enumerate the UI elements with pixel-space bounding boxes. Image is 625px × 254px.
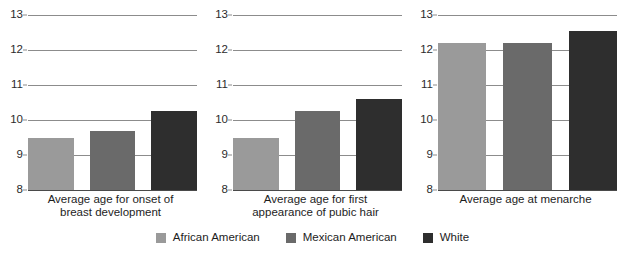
y-tick-mark	[433, 120, 437, 121]
panel-caption: Average age at menarche	[430, 193, 621, 206]
bar[interactable]	[90, 131, 136, 191]
y-axis-tick-label: 11	[216, 79, 228, 91]
plot-area: 1312111098	[233, 15, 402, 190]
y-tick-mark	[228, 85, 232, 86]
grouped-bar-chart-figure: 1312111098 Average age for onset ofbreas…	[0, 0, 625, 254]
bar[interactable]	[356, 99, 402, 190]
y-axis-tick-label: 10	[215, 114, 228, 126]
bar-slot	[151, 15, 197, 190]
y-tick-mark	[228, 120, 232, 121]
chart-panel-menarche: 1312111098 Average age at menarche	[410, 0, 625, 226]
axis-baseline	[233, 190, 402, 191]
y-tick-mark	[23, 85, 27, 86]
bar[interactable]	[569, 31, 617, 190]
bar-slot	[90, 15, 136, 190]
y-axis-tick-label: 9	[427, 149, 433, 161]
panel-caption: Average age for firstappearance of pubic…	[225, 193, 406, 219]
bar[interactable]	[503, 43, 551, 190]
legend-label: White	[440, 232, 469, 244]
bar-slot	[356, 15, 402, 190]
bar-slot	[295, 15, 341, 190]
y-tick-mark	[433, 155, 437, 156]
panel-caption: Average age for onset ofbreast developme…	[20, 193, 201, 219]
y-tick-mark	[433, 85, 437, 86]
plot-area: 1312111098	[28, 15, 197, 190]
y-axis-tick-label: 11	[421, 79, 433, 91]
y-axis-tick-label: 10	[10, 114, 23, 126]
legend-label: Mexican American	[303, 232, 397, 244]
bar-group	[438, 15, 617, 190]
y-tick-mark	[23, 15, 27, 16]
bar-slot	[28, 15, 74, 190]
chart-panel-pubic-hair: 1312111098 Average age for firstappearan…	[205, 0, 410, 226]
y-tick-mark	[23, 155, 27, 156]
y-axis-tick-label: 12	[215, 44, 228, 56]
legend-item[interactable]: White	[423, 232, 469, 244]
y-tick-mark	[228, 50, 232, 51]
y-axis-tick-label: 13	[420, 9, 433, 21]
bar-slot	[503, 15, 551, 190]
bar[interactable]	[151, 111, 197, 190]
bar[interactable]	[233, 138, 279, 191]
axis-baseline	[438, 190, 617, 191]
legend-item[interactable]: African American	[156, 232, 260, 244]
y-axis-tick-label: 9	[17, 149, 23, 161]
y-tick-mark	[23, 190, 27, 191]
y-axis-tick-label: 12	[10, 44, 23, 56]
legend-item[interactable]: Mexican American	[286, 232, 397, 244]
y-axis-tick-label: 12	[420, 44, 433, 56]
y-tick-mark	[433, 50, 437, 51]
bar[interactable]	[438, 43, 486, 190]
panel-caption-line: breast development	[20, 206, 201, 219]
y-axis-tick-label: 10	[420, 114, 433, 126]
y-tick-mark	[433, 15, 437, 16]
bar-slot	[569, 15, 617, 190]
y-tick-mark	[228, 15, 232, 16]
y-tick-mark	[228, 190, 232, 191]
bar-slot	[233, 15, 279, 190]
axis-baseline	[28, 190, 197, 191]
y-tick-mark	[23, 120, 27, 121]
y-axis-tick-label: 13	[10, 9, 23, 21]
y-tick-mark	[23, 50, 27, 51]
bar-slot	[438, 15, 486, 190]
plot-area: 1312111098	[438, 15, 617, 190]
y-axis-tick-label: 13	[215, 9, 228, 21]
y-tick-mark	[433, 190, 437, 191]
legend-label: African American	[173, 232, 260, 244]
legend-swatch-icon	[286, 233, 296, 243]
legend-swatch-icon	[156, 233, 166, 243]
bar[interactable]	[295, 111, 341, 190]
panel-caption-line: appearance of pubic hair	[225, 206, 406, 219]
panels-row: 1312111098 Average age for onset ofbreas…	[0, 0, 625, 226]
bar[interactable]	[28, 138, 74, 191]
panel-caption-line: Average age at menarche	[430, 193, 621, 206]
bar-group	[28, 15, 197, 190]
panel-caption-line: Average age for first	[225, 193, 406, 206]
y-axis-tick-label: 11	[11, 79, 23, 91]
y-tick-mark	[228, 155, 232, 156]
bar-group	[233, 15, 402, 190]
chart-panel-breast-development: 1312111098 Average age for onset ofbreas…	[0, 0, 205, 226]
y-axis-tick-label: 9	[222, 149, 228, 161]
panel-caption-line: Average age for onset of	[20, 193, 201, 206]
legend-swatch-icon	[423, 233, 433, 243]
chart-legend: African AmericanMexican AmericanWhite	[0, 232, 625, 244]
